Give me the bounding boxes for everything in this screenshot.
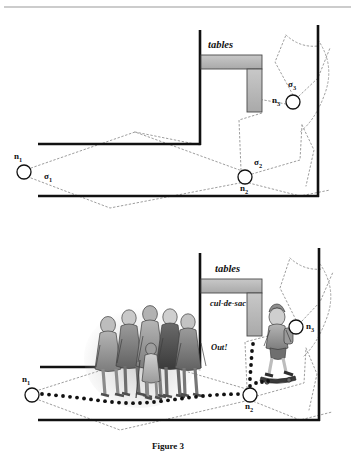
child-on-skateboard <box>260 304 296 384</box>
cul-de-sac-label: cul-de-sac <box>206 299 250 308</box>
sigma-label-2-top: σ2 <box>254 158 262 169</box>
top-dashed-paths <box>31 35 330 208</box>
node-label-n2-top: n2 <box>240 184 248 195</box>
node-label-n1-top: n1 <box>14 152 22 163</box>
node-n1-top <box>17 165 31 179</box>
sigma-label-1-top: σ1 <box>44 172 52 183</box>
node-label-n2-bottom: n2 <box>245 402 253 413</box>
top-panel-tables <box>201 55 262 112</box>
tables-label-top: tables <box>208 40 233 51</box>
node-n1-bottom <box>25 388 39 402</box>
sigma-label-3-top: σ3 <box>288 80 296 91</box>
node-n2-bottom <box>243 388 257 402</box>
node-n3-bottom <box>289 320 303 334</box>
top-panel-group <box>17 25 330 208</box>
node-label-n1-bottom: n1 <box>22 375 30 386</box>
tables-label-bottom: tables <box>215 264 240 275</box>
top-panel-walls <box>38 25 319 197</box>
node-n2-top <box>238 170 252 184</box>
node-n3-top <box>286 95 300 109</box>
node-label-n3-top: n3 <box>272 96 280 107</box>
bottom-panel-group <box>25 248 333 430</box>
crowd-of-people <box>84 306 206 408</box>
node-label-n3-bottom: n3 <box>306 322 314 333</box>
figure-caption: Figure 3 <box>152 442 184 451</box>
out-label: Out! <box>211 343 228 352</box>
